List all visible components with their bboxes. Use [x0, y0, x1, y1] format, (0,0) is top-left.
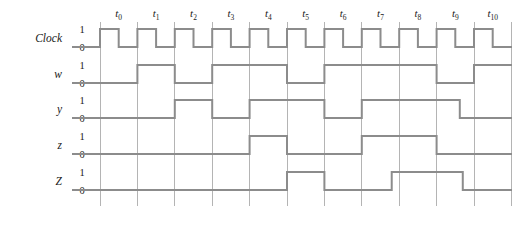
time-tick-label-t7: t7	[377, 7, 384, 22]
time-tick-labels-group: t0t1t2t3t4t5t6t7t8t9t10	[115, 7, 498, 22]
time-tick-label-t10: t10	[487, 7, 498, 22]
level-label-high-z: 1	[79, 131, 84, 142]
time-tick-label-t2: t2	[190, 7, 197, 22]
level-label-high-z: 1	[79, 167, 84, 178]
signal-name-y: y	[56, 103, 63, 116]
waveform-z	[72, 136, 512, 154]
time-tick-label-t4: t4	[265, 7, 272, 22]
signal-name-z: z	[57, 139, 63, 151]
gridlines-group	[100, 22, 511, 206]
level-labels-group: 1010101010	[79, 24, 84, 196]
waveform-z	[72, 172, 512, 190]
time-tick-label-t3: t3	[227, 7, 234, 22]
signal-name-w: w	[54, 68, 62, 80]
time-tick-label-t9: t9	[452, 7, 459, 22]
level-label-high-w: 1	[79, 60, 84, 71]
waveform-y	[72, 100, 512, 118]
time-tick-label-t1: t1	[153, 7, 160, 22]
level-label-high-clock: 1	[79, 24, 84, 35]
time-tick-label-t0: t0	[115, 7, 122, 22]
signal-names-group: ClockwyzZ	[35, 32, 63, 187]
signal-name-z: Z	[56, 175, 63, 187]
signal-name-clock: Clock	[35, 32, 63, 44]
level-label-high-y: 1	[79, 95, 84, 106]
time-tick-label-t8: t8	[414, 7, 421, 22]
timing-diagram: t0t1t2t3t4t5t6t7t8t9t10 ClockwyzZ 101010…	[0, 0, 518, 228]
timing-diagram-canvas: t0t1t2t3t4t5t6t7t8t9t10 ClockwyzZ 101010…	[0, 0, 518, 228]
time-tick-label-t6: t6	[340, 7, 347, 22]
waveforms-group	[72, 29, 512, 190]
waveform-w	[72, 65, 512, 83]
waveform-clock	[72, 29, 512, 47]
time-tick-label-t5: t5	[302, 7, 309, 22]
